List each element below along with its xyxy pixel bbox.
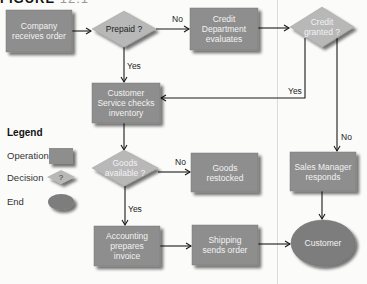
label-sales-manager: Sales Manager responds (292, 152, 354, 191)
label-credit-granted: Credit granted ? (302, 10, 342, 44)
label-accounting: Accounting prepares invoice (98, 226, 156, 266)
label-customer: Customer (293, 232, 353, 254)
legend-operation-shape (49, 148, 73, 164)
edge-label-prepaid-yes: Yes (127, 61, 141, 71)
label-credit-department: Credit Department evaluates (192, 8, 256, 50)
label-shipping: Shipping sends order (196, 225, 254, 265)
legend-title: Legend (7, 127, 43, 138)
edge-label-goods-yes: Yes (128, 204, 142, 214)
flow-edges (72, 28, 337, 246)
label-company-receives-order: Company receives order (6, 10, 72, 52)
label-goods-restocked: Goods restocked (200, 153, 250, 192)
legend-label-decision: Decision (7, 172, 43, 183)
edge-label-credit-yes: Yes (288, 86, 302, 96)
edge-label-goods-no: No (175, 157, 186, 167)
label-goods-available: Goods available ? (100, 155, 150, 181)
edge-label-credit-no: No (341, 132, 352, 142)
edge-label-prepaid-no: No (172, 14, 183, 24)
legend-decision-symbol: ? (59, 173, 64, 182)
label-customer-service: Customer Service checks inventory (94, 83, 158, 123)
legend-label-operation: Operation (7, 150, 49, 161)
legend-label-end: End (7, 196, 24, 207)
label-prepaid: Prepaid ? (96, 20, 152, 38)
legend-end-shape (48, 194, 74, 210)
